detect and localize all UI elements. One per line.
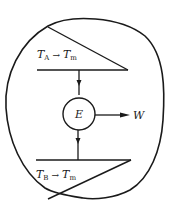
heat-in-arrow [77, 70, 82, 95]
heat-engine-diagram: TA→Tm E W TB→Tm [0, 0, 172, 216]
top-reservoir-label: TA→Tm [37, 48, 77, 62]
engine-label: E [74, 108, 83, 121]
work-label: W [133, 109, 146, 122]
heat-out-arrow [76, 130, 81, 160]
top-reservoir: TA→Tm [37, 27, 128, 70]
work-arrow: W [95, 109, 146, 122]
bottom-reservoir: TB→Tm [36, 160, 131, 199]
engine: E [63, 98, 95, 130]
bottom-reservoir-label: TB→Tm [36, 168, 76, 182]
